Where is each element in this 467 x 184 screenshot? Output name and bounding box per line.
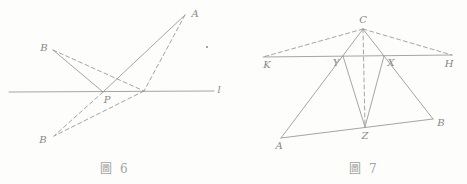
fig7-dashed-segment-C-H — [363, 29, 452, 55]
fig6-speck-dot-0 — [206, 46, 208, 48]
fig6-dashed-segment-Q-B2 — [54, 91, 144, 136]
fig7-segment-A-B — [281, 119, 433, 138]
fig6-segment-L1-L2 — [9, 91, 214, 92]
fig7-point-label-K: K — [262, 59, 271, 70]
fig6-dashed-segment-P-B2 — [54, 92, 103, 136]
scanned-worksheet-page: BAPBlCKHYXZAB 圖 6 圖 7 — [0, 0, 467, 184]
fig7-point-label-Z: Z — [361, 130, 370, 141]
fig6-point-label-P: P — [103, 94, 111, 105]
fig6-segment-B-P — [53, 50, 103, 92]
fig7-dashed-segment-C-Z — [363, 29, 365, 127]
fig7-point-label-A: A — [274, 140, 282, 151]
fig7-point-label-H: H — [444, 58, 454, 69]
fig7-point-label-C: C — [359, 14, 367, 25]
fig6-dashed-segment-B-Q — [53, 50, 144, 91]
fig6-point-label-A: A — [190, 8, 198, 19]
figure7-caption: 圖 7 — [334, 159, 394, 176]
fig6-segment-P-A — [103, 15, 185, 92]
fig7-point-label-X: X — [386, 57, 395, 68]
geometry-figures-svg: BAPBlCKHYXZAB — [0, 0, 467, 184]
figure6-caption: 圖 6 — [85, 159, 145, 176]
fig7-segment-A-C — [281, 29, 363, 138]
fig7-segment-K-H — [263, 55, 452, 57]
fig7-segment-X-Z — [365, 56, 384, 127]
fig6-point-label-B: B — [38, 134, 46, 145]
fig6-dashed-segment-A-Q — [144, 15, 185, 91]
fig7-point-label-Y: Y — [333, 57, 341, 68]
fig6-point-label-l: l — [217, 84, 220, 95]
fig6-point-label-B: B — [39, 42, 47, 53]
fig7-dashed-segment-C-K — [263, 29, 363, 57]
fig7-segment-B-C — [363, 29, 433, 119]
fig7-segment-Y-Z — [343, 56, 365, 127]
fig7-point-label-B: B — [436, 117, 444, 128]
